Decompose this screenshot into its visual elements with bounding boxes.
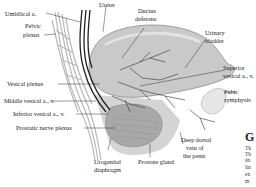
label-pelvic-plexus-line2: plexus <box>23 31 39 38</box>
label-inferior-vesical: Inferior vesical a., v. <box>13 110 65 117</box>
label-ductus-deferens-line2: deferens <box>135 15 156 22</box>
label-vesical-plexus: Vesical plexus <box>7 80 43 87</box>
side-text-line: sh <box>245 157 250 164</box>
side-text-line: ex <box>245 171 250 178</box>
label-pubic-symphysis-line2: symphysis <box>224 96 251 103</box>
label-superior-vesical-line2: vesical a., v. <box>223 72 254 79</box>
label-umbilical-artery: Umbilical a. <box>5 10 36 17</box>
side-text-line: lin <box>245 164 251 171</box>
label-prostate-gland: Prostate gland <box>138 158 174 165</box>
label-superior-vesical-line1: Superior <box>223 64 245 71</box>
pubic-symphysis <box>201 88 226 114</box>
label-deep-dorsal-vein-line3: the penis <box>183 152 206 159</box>
side-heading: G <box>245 130 254 145</box>
label-middle-vesical: Middle vesical a., v. <box>4 97 55 104</box>
label-pelvic-plexus-line1: Pelvic <box>25 22 41 29</box>
label-ductus-deferens-line1: Ductus <box>138 7 156 14</box>
label-pubic-symphysis-line1: Pubic <box>224 88 238 95</box>
label-ureter: Ureter <box>99 1 115 8</box>
label-prostatic-nerve-plexus: Prostatic nerve plexus <box>16 124 72 131</box>
label-urinary-bladder-line2: bladder <box>205 37 224 44</box>
label-urinary-bladder-line1: Urinary <box>205 29 225 36</box>
side-text-line: m <box>245 178 249 185</box>
anatomy-diagram: Umbilical a. Pelvic plexus Ureter Ductus… <box>0 0 256 187</box>
label-urogenital-diaphragm-line1: Urogenital <box>94 158 121 165</box>
label-deep-dorsal-vein-line1: Deep dorsal <box>181 136 211 143</box>
label-deep-dorsal-vein-line2: vein of <box>186 144 204 151</box>
label-urogenital-diaphragm-line2: diaphragm <box>94 166 121 173</box>
